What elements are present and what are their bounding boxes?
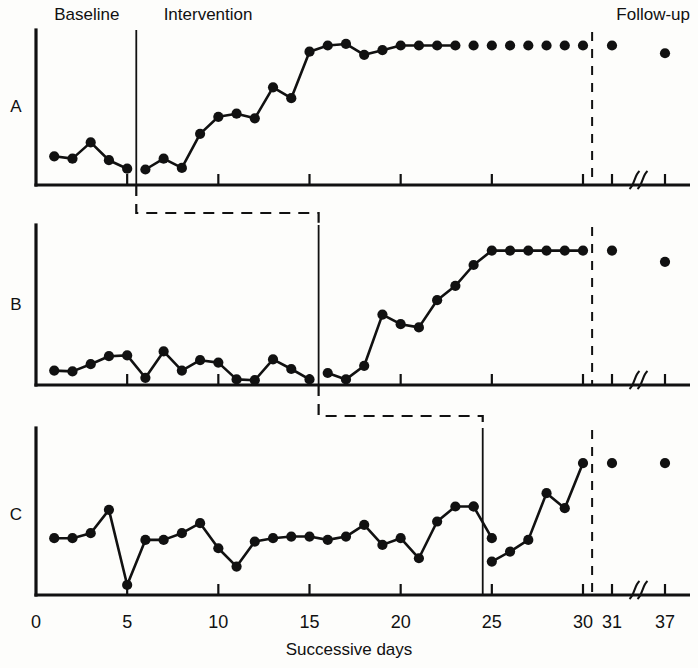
data-point-c xyxy=(541,488,551,498)
data-line-c-intervention xyxy=(492,463,583,562)
data-point-b xyxy=(607,246,617,256)
data-point-a xyxy=(104,155,114,165)
data-line-a-intervention xyxy=(145,44,455,170)
data-point-c xyxy=(250,536,260,546)
data-point-c xyxy=(86,528,96,538)
data-point-a xyxy=(341,39,351,49)
data-point-c xyxy=(487,557,497,567)
data-point-a xyxy=(487,40,497,50)
data-point-b xyxy=(341,374,351,384)
data-point-b xyxy=(86,359,96,369)
data-point-b xyxy=(578,246,588,256)
data-point-a xyxy=(49,151,59,161)
data-point-c xyxy=(450,501,460,511)
data-point-b xyxy=(359,361,369,371)
data-point-b xyxy=(104,351,114,361)
data-point-c xyxy=(268,533,278,543)
x-axis-title: Successive days xyxy=(286,640,413,659)
multiple-baseline-figure: ABCBaselineInterventionFollow-up05101520… xyxy=(0,0,698,668)
data-point-c xyxy=(213,543,223,553)
phase-label-followup: Follow-up xyxy=(616,5,690,24)
data-point-b xyxy=(323,368,333,378)
phase-label-baseline: Baseline xyxy=(54,5,119,24)
data-point-c xyxy=(560,503,570,513)
data-point-a xyxy=(469,40,479,50)
data-point-c xyxy=(231,562,241,572)
panel-label-b: B xyxy=(10,295,21,314)
data-point-b xyxy=(268,354,278,364)
x-tick-label-30: 30 xyxy=(573,612,593,632)
data-point-a xyxy=(213,112,223,122)
data-point-a xyxy=(414,40,424,50)
data-point-a xyxy=(304,47,314,57)
data-point-c xyxy=(67,533,77,543)
data-point-b xyxy=(231,374,241,384)
data-point-b xyxy=(195,355,205,365)
data-point-a xyxy=(177,163,187,173)
data-point-b xyxy=(523,246,533,256)
data-line-b-intervention xyxy=(328,251,583,380)
data-point-a xyxy=(560,40,570,50)
data-point-c xyxy=(432,516,442,526)
data-point-c xyxy=(159,535,169,545)
data-point-a xyxy=(67,154,77,164)
data-point-a xyxy=(122,164,132,174)
data-point-c xyxy=(396,533,406,543)
data-line-c-baseline xyxy=(54,506,473,584)
data-point-c xyxy=(359,520,369,530)
phase-connector-b-to-c xyxy=(319,385,483,428)
data-point-b xyxy=(660,257,670,267)
data-point-c xyxy=(660,458,670,468)
phase-connector-a-to-b xyxy=(136,185,318,225)
data-point-b xyxy=(377,310,387,320)
x-tick-label-20: 20 xyxy=(391,612,411,632)
data-point-b xyxy=(505,246,515,256)
data-point-b xyxy=(450,281,460,291)
data-point-a xyxy=(286,93,296,103)
data-point-a xyxy=(159,154,169,164)
data-point-c xyxy=(304,531,314,541)
data-point-c xyxy=(523,535,533,545)
data-point-b xyxy=(432,295,442,305)
data-point-a xyxy=(268,82,278,92)
data-point-c xyxy=(122,580,132,590)
data-point-c xyxy=(578,458,588,468)
data-point-c xyxy=(49,533,59,543)
x-tick-label-37: 37 xyxy=(655,612,675,632)
data-point-c xyxy=(505,546,515,556)
x-tick-label-10: 10 xyxy=(208,612,228,632)
data-point-a xyxy=(377,45,387,55)
data-point-b xyxy=(469,260,479,270)
data-point-b xyxy=(159,346,169,356)
data-point-b xyxy=(286,364,296,374)
phase-label-intervention: Intervention xyxy=(164,5,253,24)
data-point-b xyxy=(487,246,497,256)
data-point-a xyxy=(607,40,617,50)
data-point-c xyxy=(177,528,187,538)
data-point-c xyxy=(469,501,479,511)
data-point-a xyxy=(86,137,96,147)
data-point-b xyxy=(122,350,132,360)
data-point-c xyxy=(607,458,617,468)
chart-canvas: ABCBaselineInterventionFollow-up05101520… xyxy=(0,0,698,668)
data-point-c xyxy=(104,505,114,515)
x-tick-label-15: 15 xyxy=(299,612,319,632)
data-point-a xyxy=(505,40,515,50)
data-point-b xyxy=(49,366,59,376)
data-point-a xyxy=(523,40,533,50)
data-point-a xyxy=(396,40,406,50)
data-point-b xyxy=(213,358,223,368)
data-point-b xyxy=(140,373,150,383)
data-point-a xyxy=(450,40,460,50)
data-point-a xyxy=(231,109,241,119)
data-point-b xyxy=(396,319,406,329)
data-point-c xyxy=(487,533,497,543)
data-point-c xyxy=(140,535,150,545)
data-point-b xyxy=(560,246,570,256)
data-point-b xyxy=(414,322,424,332)
x-tick-label-31: 31 xyxy=(602,612,622,632)
x-tick-label-0: 0 xyxy=(31,612,41,632)
data-point-a xyxy=(195,129,205,139)
data-point-b xyxy=(304,374,314,384)
data-point-b xyxy=(177,366,187,376)
